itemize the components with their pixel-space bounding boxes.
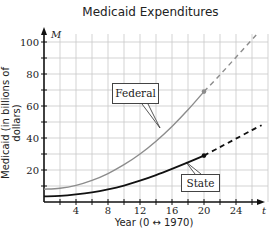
svg-text:8: 8 [105,205,111,216]
x-axis-label: Year (0 ↔ 1970) [44,217,264,228]
state-callout: State [181,174,220,192]
svg-text:20: 20 [26,165,39,176]
svg-text:t: t [262,205,267,216]
svg-text:16: 16 [166,205,179,216]
svg-text:60: 60 [26,101,39,112]
svg-text:24: 24 [230,205,243,216]
svg-text:12: 12 [134,205,147,216]
svg-text:80: 80 [26,69,39,80]
federal-callout: Federal [112,83,159,104]
svg-text:20: 20 [198,205,211,216]
svg-text:4: 4 [73,205,79,216]
grid [44,34,268,202]
svg-text:100: 100 [20,37,39,48]
series [44,32,262,196]
y-axis-label: Medicaid (in billions of dollars) [0,48,22,198]
svg-text:M: M [50,29,62,40]
svg-text:40: 40 [26,133,39,144]
chart-plot: 481216202420406080100tM [0,0,273,232]
